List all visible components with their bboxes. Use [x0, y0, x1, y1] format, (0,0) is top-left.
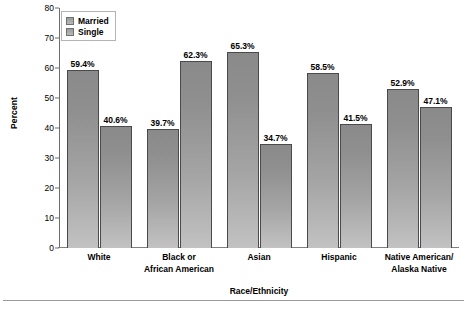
bar-slot: 58.5% — [307, 8, 339, 248]
bar-value-label: 41.5% — [343, 113, 367, 123]
bar-group-bars: 52.9%47.1% — [379, 8, 459, 248]
bar[interactable]: 59.4% — [67, 70, 99, 248]
bar-group: 59.4%40.6% — [59, 8, 139, 248]
bar-slot: 40.6% — [100, 8, 132, 248]
legend-label: Married — [78, 16, 109, 26]
bar[interactable]: 52.9% — [387, 89, 419, 248]
bar[interactable]: 62.3% — [180, 61, 212, 248]
bar[interactable]: 34.7% — [260, 144, 292, 248]
bar-group: 52.9%47.1% — [379, 8, 459, 248]
bar-value-label: 62.3% — [183, 50, 207, 60]
bar-value-label: 40.6% — [103, 115, 127, 125]
y-axis-tick-label: 0 — [49, 243, 54, 253]
bar-group-bars: 58.5%41.5% — [299, 8, 379, 248]
bar-slot: 65.3% — [227, 8, 259, 248]
bar-group: 39.7%62.3% — [139, 8, 219, 248]
y-axis-title: Percent — [9, 83, 19, 143]
bar-value-label: 47.1% — [423, 96, 447, 106]
legend-item-married: Married — [66, 15, 109, 26]
x-axis-category-label: Hispanic — [299, 252, 379, 275]
legend-item-single: Single — [66, 26, 109, 37]
bar-slot: 62.3% — [180, 8, 212, 248]
x-axis-category-label: Native American/Alaska Native — [379, 252, 459, 275]
bar[interactable]: 65.3% — [227, 52, 259, 248]
bar-value-label: 52.9% — [390, 78, 414, 88]
bar[interactable]: 40.6% — [100, 126, 132, 248]
bar[interactable]: 41.5% — [340, 124, 372, 249]
y-axis-tick-label: 60 — [45, 63, 54, 73]
y-axis-tick-label: 30 — [45, 153, 54, 163]
y-axis-tick-label: 20 — [45, 183, 54, 193]
bar-value-label: 34.7% — [263, 133, 287, 143]
legend-label: Single — [78, 27, 104, 37]
legend-swatch-icon — [66, 28, 74, 36]
x-axis-category-label: Asian — [219, 252, 299, 275]
bar[interactable]: 39.7% — [147, 129, 179, 248]
bar-group-bars: 39.7%62.3% — [139, 8, 219, 248]
x-axis-title: Race/Ethnicity — [59, 286, 459, 296]
bar[interactable]: 58.5% — [307, 73, 339, 249]
legend-swatch-icon — [66, 17, 74, 25]
x-axis-category-labels: WhiteBlack orAfrican AmericanAsianHispan… — [59, 252, 459, 275]
bar-group-bars: 65.3%34.7% — [219, 8, 299, 248]
y-axis-tick-label: 70 — [45, 33, 54, 43]
bar-slot: 39.7% — [147, 8, 179, 248]
bar-value-label: 39.7% — [150, 118, 174, 128]
x-axis-category-label: White — [59, 252, 139, 275]
bar-chart-figure: Percent 01020304050607080 59.4%40.6%39.7… — [0, 0, 467, 310]
bar-groups: 59.4%40.6%39.7%62.3%65.3%34.7%58.5%41.5%… — [59, 8, 459, 248]
bar-slot: 34.7% — [260, 8, 292, 248]
y-axis-tick-label: 80 — [45, 3, 54, 13]
y-axis-tick-label: 10 — [45, 213, 54, 223]
bar-group: 58.5%41.5% — [299, 8, 379, 248]
bar[interactable]: 47.1% — [420, 107, 452, 248]
bar-value-label: 58.5% — [310, 62, 334, 72]
bar-slot: 47.1% — [420, 8, 452, 248]
y-axis-tick-label: 40 — [45, 123, 54, 133]
chart-legend: Married Single — [61, 11, 116, 41]
bar-group: 65.3%34.7% — [219, 8, 299, 248]
bar-slot: 52.9% — [387, 8, 419, 248]
bar-value-label: 65.3% — [230, 41, 254, 51]
bar-slot: 41.5% — [340, 8, 372, 248]
bar-slot: 59.4% — [67, 8, 99, 248]
footer-divider — [3, 300, 464, 301]
y-axis-tick-label: 50 — [45, 93, 54, 103]
bar-value-label: 59.4% — [70, 59, 94, 69]
bar-group-bars: 59.4%40.6% — [59, 8, 139, 248]
x-axis-category-label: Black orAfrican American — [139, 252, 219, 275]
plot-area: 01020304050607080 59.4%40.6%39.7%62.3%65… — [59, 8, 459, 248]
